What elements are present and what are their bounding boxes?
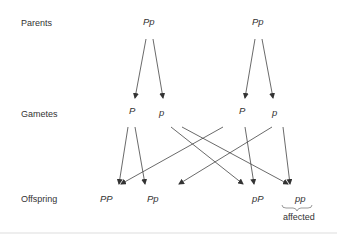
row-label-gametes: Gametes — [21, 109, 58, 119]
affected-label: affected — [283, 212, 315, 222]
divider — [0, 232, 337, 234]
row-label-parents: Parents — [21, 18, 52, 28]
offspring-2: Pp — [147, 193, 159, 204]
gamete-3: P — [239, 105, 245, 116]
parent-2: Pp — [252, 16, 264, 27]
offspring-1: PP — [100, 193, 113, 204]
row-label-offspring: Offspring — [21, 194, 57, 204]
gamete-4: p — [272, 107, 277, 118]
offspring-4: pp — [295, 193, 306, 204]
gamete-2: p — [159, 107, 164, 118]
offspring-3: pP — [252, 193, 264, 204]
parent-1: Pp — [143, 16, 155, 27]
gamete-1: P — [129, 105, 135, 116]
cross-arrows — [0, 0, 337, 240]
